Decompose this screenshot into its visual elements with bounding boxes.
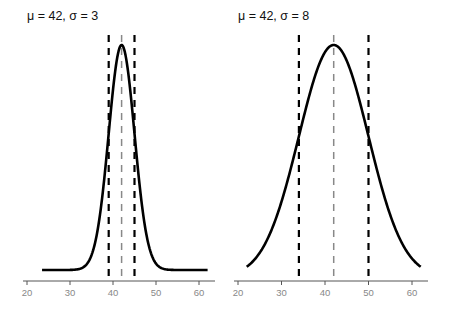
x-tick-label: 60 [407,287,418,298]
right-panel: 2030405060 [233,35,428,298]
x-tick-label: 40 [108,287,119,298]
x-tick-label: 60 [194,287,205,298]
x-tick-label: 50 [363,287,374,298]
x-tick-label: 50 [151,287,162,298]
left-panel: 2030405060 [22,35,215,298]
x-tick-label: 30 [276,287,287,298]
x-tick-label: 20 [233,287,244,298]
normal-distribution-charts: 2030405060 2030405060 [0,0,451,310]
x-tick-label: 40 [320,287,331,298]
density-curve [42,45,208,270]
x-tick-label: 30 [65,287,76,298]
x-tick-label: 20 [22,287,33,298]
